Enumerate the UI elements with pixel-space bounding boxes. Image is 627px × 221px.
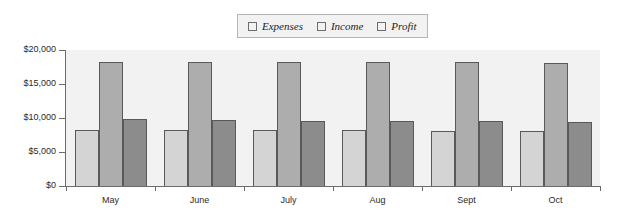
bar-profit: [568, 122, 592, 186]
bar-profit: [479, 121, 503, 186]
bar-income: [455, 62, 479, 186]
legend-entry-income: Income: [317, 21, 363, 32]
x-axis-tick: [244, 186, 245, 191]
y-axis-tick: [59, 118, 65, 119]
bar-chart: Expenses Income Profit $0$5,000$10,000$1…: [0, 0, 627, 221]
x-axis-label: Aug: [338, 196, 418, 205]
bar-expenses: [75, 130, 99, 186]
y-axis-tick-label: $10,000: [4, 113, 56, 122]
legend-label-income: Income: [331, 21, 363, 32]
y-axis-tick-label: $5,000: [4, 147, 56, 156]
x-axis-label: May: [71, 196, 151, 205]
x-axis-tick: [422, 186, 423, 191]
bar-group: [519, 50, 593, 186]
bar-income: [366, 62, 390, 186]
x-axis-tick: [600, 186, 601, 191]
bar-profit: [301, 121, 325, 186]
x-axis-label: June: [160, 196, 240, 205]
y-axis-tick-label: $0: [4, 181, 56, 190]
y-axis-tick: [59, 84, 65, 85]
bar-income: [277, 62, 301, 186]
legend-entry-profit: Profit: [377, 21, 416, 32]
y-axis-tick: [59, 152, 65, 153]
bar-expenses: [520, 131, 544, 186]
x-axis-tick: [333, 186, 334, 191]
bar-group: [252, 50, 326, 186]
bar-group: [163, 50, 237, 186]
x-axis-label: Oct: [516, 196, 596, 205]
bar-profit: [390, 121, 414, 186]
bar-expenses: [342, 130, 366, 186]
x-axis-tick: [66, 186, 67, 191]
x-axis-tick: [511, 186, 512, 191]
bar-expenses: [431, 131, 455, 186]
legend-swatch-income: [317, 22, 326, 31]
bar-profit: [123, 119, 147, 186]
legend-swatch-profit: [377, 22, 386, 31]
legend-entry-expenses: Expenses: [248, 21, 303, 32]
legend-swatch-expenses: [248, 22, 257, 31]
bar-profit: [212, 120, 236, 186]
legend-label-profit: Profit: [391, 21, 416, 32]
y-axis-line: [65, 50, 66, 187]
bar-income: [188, 62, 212, 186]
bar-income: [99, 62, 123, 186]
y-axis-labels: $0$5,000$10,000$15,000$20,000: [0, 0, 56, 221]
bar-expenses: [253, 130, 277, 186]
bar-group: [430, 50, 504, 186]
x-axis-tick: [155, 186, 156, 191]
x-axis-label: July: [249, 196, 329, 205]
x-axis-label: Sept: [427, 196, 507, 205]
bar-expenses: [164, 130, 188, 186]
legend-label-expenses: Expenses: [262, 21, 303, 32]
y-axis-tick: [59, 186, 65, 187]
bar-group: [341, 50, 415, 186]
y-axis-tick-label: $15,000: [4, 79, 56, 88]
bar-group: [74, 50, 148, 186]
y-axis-tick-label: $20,000: [4, 45, 56, 54]
y-axis-tick: [59, 50, 65, 51]
chart-legend: Expenses Income Profit: [237, 14, 428, 38]
bar-income: [544, 63, 568, 186]
